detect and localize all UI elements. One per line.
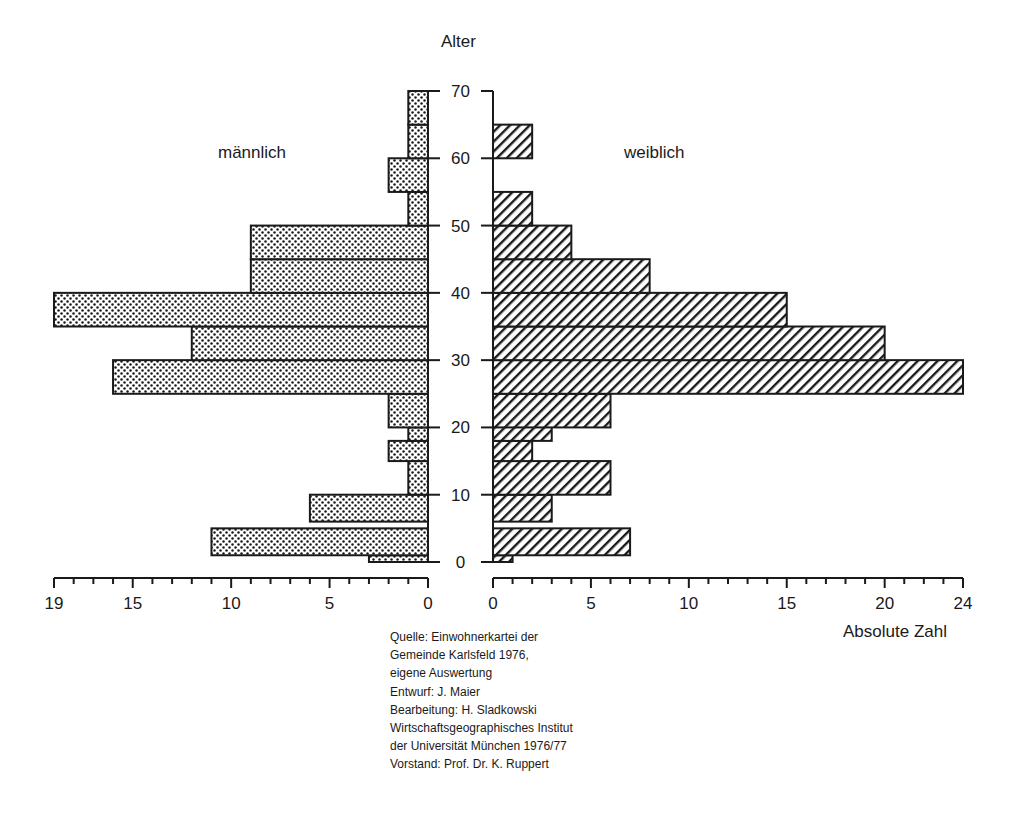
male-count-tick-label: 15: [123, 594, 142, 613]
x-axis-title: Absolute Zahl: [843, 622, 947, 642]
age-tick-label: 10: [451, 486, 470, 505]
male-bar: [192, 327, 428, 361]
female-bar: [493, 555, 513, 562]
source-line: der Universität München 1976/77: [390, 737, 573, 755]
male-bar: [310, 495, 428, 522]
male-bar: [408, 461, 428, 495]
male-bar: [211, 528, 428, 555]
male-bar: [54, 293, 428, 327]
source-note: Quelle: Einwohnerkartei der Gemeinde Kar…: [390, 628, 573, 774]
male-bar: [408, 125, 428, 159]
female-bar: [493, 226, 571, 260]
age-tick-label: 0: [456, 553, 465, 572]
source-line: Vorstand: Prof. Dr. K. Ruppert: [390, 755, 573, 773]
female-bar: [493, 327, 885, 361]
male-bar: [389, 394, 428, 428]
source-line: Wirtschaftsgeographisches Institut: [390, 719, 573, 737]
female-count-tick-label: 5: [586, 594, 595, 613]
source-line: eigene Auswertung: [390, 664, 573, 682]
female-bars: [493, 125, 963, 562]
male-bar: [369, 555, 428, 562]
age-tick-label: 60: [451, 149, 470, 168]
female-bar: [493, 461, 611, 495]
female-bar: [493, 360, 963, 394]
male-bar: [251, 259, 428, 293]
female-bar: [493, 394, 611, 428]
female-bar: [493, 259, 650, 293]
male-bar: [389, 158, 428, 192]
source-line: Entwurf: J. Maier: [390, 683, 573, 701]
source-line: Quelle: Einwohnerkartei der: [390, 628, 573, 646]
female-count-tick-label: 20: [875, 594, 894, 613]
female-count-tick-label: 15: [777, 594, 796, 613]
male-count-tick-label: 10: [222, 594, 241, 613]
male-bar: [389, 441, 428, 461]
male-count-tick-label: 19: [45, 594, 64, 613]
age-tick-label: 30: [451, 351, 470, 370]
female-bar: [493, 125, 532, 159]
female-count-tick-label: 24: [954, 594, 973, 613]
y-axis-title: Alter: [441, 32, 476, 52]
female-title: weiblich: [624, 143, 684, 163]
male-title: männlich: [218, 143, 286, 163]
male-bar: [408, 91, 428, 125]
female-bar: [493, 441, 532, 461]
female-bar: [493, 293, 787, 327]
male-bar: [113, 360, 428, 394]
female-count-tick-label: 10: [679, 594, 698, 613]
female-bar: [493, 495, 552, 522]
age-tick-label: 20: [451, 418, 470, 437]
female-bar: [493, 528, 630, 555]
male-bar: [408, 427, 428, 440]
source-line: Gemeinde Karlsfeld 1976,: [390, 646, 573, 664]
male-bar: [408, 192, 428, 226]
age-tick-label: 50: [451, 217, 470, 236]
age-tick-label: 70: [451, 82, 470, 101]
source-line: Bearbeitung: H. Sladkowski: [390, 701, 573, 719]
female-count-tick-label: 0: [488, 594, 497, 613]
age-tick-label: 40: [451, 284, 470, 303]
male-count-tick-label: 0: [423, 594, 432, 613]
female-bar: [493, 192, 532, 226]
male-count-tick-label: 5: [325, 594, 334, 613]
male-bar: [251, 226, 428, 260]
